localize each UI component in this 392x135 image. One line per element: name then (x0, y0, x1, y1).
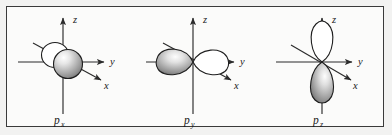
pz-back-lobe (311, 21, 333, 62)
pz-label-y: y (357, 56, 363, 67)
svg-text:x: x (60, 120, 65, 129)
svg-text:p: p (183, 114, 190, 127)
panel-pz: z y x p z (276, 14, 363, 129)
py-label-x: x (233, 80, 239, 91)
orbital-figure: z y x p x (0, 0, 392, 135)
pz-label-z: z (331, 14, 336, 25)
panel-px: z y x p x (18, 14, 115, 129)
px-label-x: x (103, 80, 109, 91)
py-label-z: z (202, 14, 207, 25)
svg-text:p: p (312, 114, 319, 127)
px-label-y: y (109, 56, 115, 67)
py-label-y: y (239, 56, 245, 67)
figure-root: z y x p x (0, 0, 392, 135)
px-label-z: z (72, 14, 77, 25)
px-front-lobe (54, 50, 83, 79)
px-caption: p x (53, 114, 65, 129)
py-front-lobe (156, 49, 193, 75)
svg-text:y: y (190, 120, 195, 129)
svg-text:p: p (53, 114, 60, 127)
pz-caption: p z (312, 114, 324, 129)
py-caption: p y (183, 114, 195, 129)
svg-text:z: z (319, 120, 324, 129)
panel-py: z y x p y (146, 14, 245, 129)
py-back-lobe (193, 50, 229, 75)
pz-label-x: x (352, 80, 358, 91)
